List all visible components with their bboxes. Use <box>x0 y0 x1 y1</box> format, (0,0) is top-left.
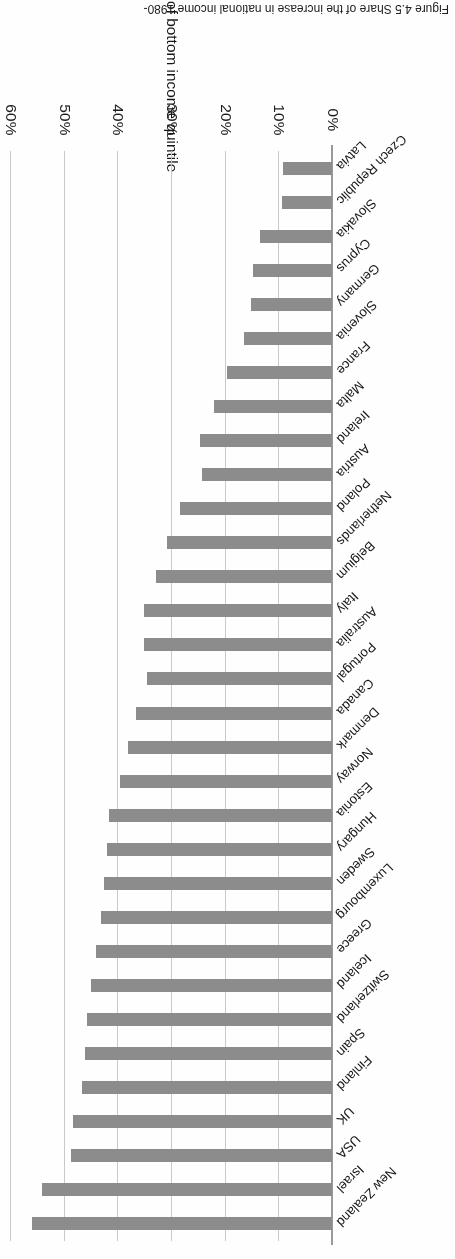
x-tick-40: 40% <box>109 95 127 145</box>
figure-caption: Figure 4.5 Share of the increase in nati… <box>143 2 449 16</box>
bar <box>214 400 332 413</box>
bar <box>104 877 332 890</box>
bar <box>251 298 332 311</box>
bar <box>85 1047 332 1060</box>
bar <box>91 979 332 992</box>
bar <box>156 570 332 583</box>
gridline-40pct <box>117 151 118 1241</box>
bar <box>253 264 332 277</box>
x-tick-50: 50% <box>56 95 74 145</box>
x-tick-0: 0% <box>324 95 342 145</box>
bar <box>73 1115 332 1128</box>
bar-chart: Share of bottom income quintile 0%10%20%… <box>0 0 455 1259</box>
bar <box>136 707 332 720</box>
bar <box>42 1183 332 1196</box>
gridline-10pct <box>278 151 279 1241</box>
plot-area <box>11 151 333 1241</box>
scanned-page: Share of bottom income quintile 0%10%20%… <box>0 0 455 1259</box>
bar <box>180 502 332 515</box>
bar <box>32 1217 332 1230</box>
bar <box>71 1149 332 1162</box>
bar <box>200 434 332 447</box>
bar <box>167 536 332 549</box>
bar <box>82 1081 332 1094</box>
bar <box>144 604 332 617</box>
bar <box>107 843 332 856</box>
bar <box>227 366 332 379</box>
bar <box>282 196 332 209</box>
bar <box>202 468 332 481</box>
bar <box>87 1013 332 1026</box>
bar <box>144 638 332 651</box>
bar <box>120 775 332 788</box>
bar <box>101 911 332 924</box>
rotated-figure-wrapper: Share of bottom income quintile 0%10%20%… <box>0 0 455 1259</box>
gridline-60pct <box>10 151 11 1241</box>
x-tick-20: 20% <box>217 95 235 145</box>
gridline-20pct <box>225 151 226 1241</box>
bar <box>109 809 332 822</box>
x-tick-30: 30% <box>163 95 181 145</box>
bar <box>283 162 332 175</box>
gridline-50pct <box>64 151 65 1241</box>
bar <box>260 230 332 243</box>
bar <box>128 741 332 754</box>
bar <box>147 672 332 685</box>
gridline-30pct <box>171 151 172 1241</box>
bar <box>96 945 332 958</box>
x-tick-60: 60% <box>2 95 20 145</box>
bar <box>244 332 332 345</box>
x-tick-10: 10% <box>270 95 288 145</box>
